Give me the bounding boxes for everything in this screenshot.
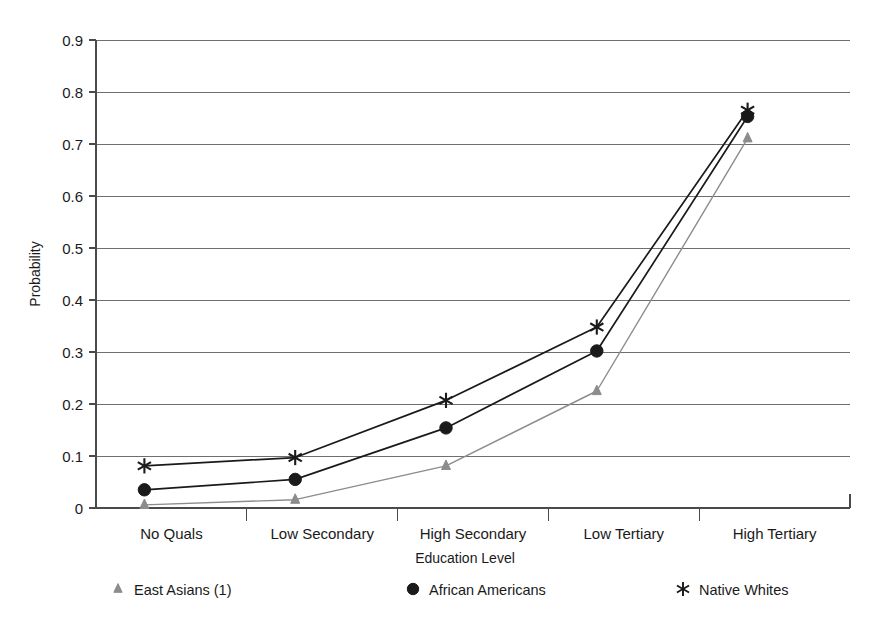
legend-label-2: Native Whites [699,582,788,598]
series-east-asians-1 [140,132,752,508]
marker-triangle [140,499,149,509]
series-line-2 [144,110,747,466]
legend-item-native-whites[interactable]: Native Whites [677,582,789,598]
ytick-label-0.9: 0.9 [62,32,83,49]
legend-item-african-americans[interactable]: African Americans [407,582,546,598]
series-line-0 [144,138,747,505]
legend-label-0: East Asians (1) [134,582,232,598]
ytick-label-0.6: 0.6 [62,188,83,205]
y-axis-title: Probability [27,241,43,306]
ytick-label-0.7: 0.7 [62,136,83,153]
ytick-label-0.5: 0.5 [62,240,83,257]
marker-triangle [743,132,752,142]
ytick-label-0.1: 0.1 [62,448,83,465]
xtick-label-low-secondary: Low Secondary [270,525,374,542]
marker-circle [440,422,452,434]
series-native-whites [138,103,754,474]
legend-item-east-asians-1[interactable]: East Asians (1) [114,582,232,598]
legend-label-1: African Americans [429,582,546,598]
marker-circle [138,484,150,496]
xtick-label-high-tertiary: High Tertiary [733,525,817,542]
xtick-label-low-tertiary: Low Tertiary [584,525,665,542]
marker-circle [289,473,301,485]
ytick-label-0.8: 0.8 [62,84,83,101]
marker-triangle [114,584,122,593]
ytick-label-0.2: 0.2 [62,396,83,413]
ytick-label-0: 0 [75,500,83,517]
ytick-label-0.4: 0.4 [62,292,83,309]
chart-figure: 00.10.20.30.40.50.60.70.80.9No QualsLow … [0,0,886,636]
marker-circle [407,583,418,594]
x-axis-title: Education Level [415,550,515,566]
xtick-label-no-quals: No Quals [140,525,203,542]
marker-circle [591,345,603,357]
ytick-label-0.3: 0.3 [62,344,83,361]
probability-by-education-line-chart: 00.10.20.30.40.50.60.70.80.9No QualsLow … [0,0,886,636]
xtick-label-high-secondary: High Secondary [420,525,527,542]
series-african-americans [138,110,754,496]
